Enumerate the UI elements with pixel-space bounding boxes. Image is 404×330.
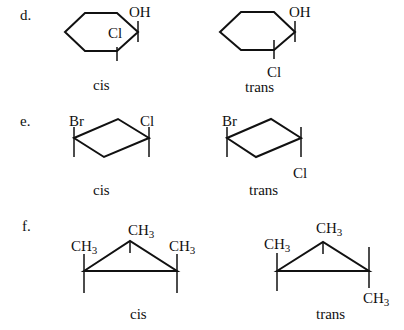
oh-label: OH <box>289 4 311 20</box>
cis-caption: cis <box>93 77 110 93</box>
right-ch3-label: CH3 <box>169 238 196 256</box>
br-label: Br <box>69 113 84 129</box>
cl-label: Cl <box>267 64 281 80</box>
cyclohexane-ring <box>65 13 138 51</box>
cyclobutane-ring <box>74 119 149 157</box>
cis-caption: cis <box>93 182 110 198</box>
oh-label: OH <box>129 4 151 20</box>
top-ch3-label: CH3 <box>316 220 343 238</box>
trans-caption: trans <box>249 182 278 198</box>
d-trans-molecule: OH Cl trans <box>220 4 311 95</box>
left-ch3-label: CH3 <box>264 236 291 254</box>
cl-label: Cl <box>293 165 307 181</box>
f-trans-molecule: CH3 CH3 CH3 trans <box>264 220 390 322</box>
stereoisomer-diagram: d. OH Cl cis OH Cl trans e. Br Cl cis Br… <box>0 0 404 330</box>
cis-caption: cis <box>130 306 147 322</box>
left-ch3-label: CH3 <box>71 238 98 256</box>
f-cis-molecule: CH3 CH3 CH3 cis <box>71 222 196 322</box>
e-trans-molecule: Br Cl trans <box>222 113 307 198</box>
trans-caption: trans <box>245 79 274 95</box>
e-cis-molecule: Br Cl cis <box>69 113 154 198</box>
br-label: Br <box>222 113 237 129</box>
bottom-ch3-label: CH3 <box>363 290 390 308</box>
trans-caption: trans <box>316 306 345 322</box>
problem-label-f: f. <box>22 218 31 234</box>
top-ch3-label: CH3 <box>128 222 155 240</box>
problem-label-e: e. <box>20 113 30 129</box>
cl-label: Cl <box>140 113 154 129</box>
cyclobutane-ring <box>227 119 301 157</box>
cyclohexane-ring <box>220 12 295 50</box>
problem-label-d: d. <box>20 7 31 23</box>
d-cis-molecule: OH Cl cis <box>65 4 151 93</box>
cl-label: Cl <box>108 25 122 41</box>
